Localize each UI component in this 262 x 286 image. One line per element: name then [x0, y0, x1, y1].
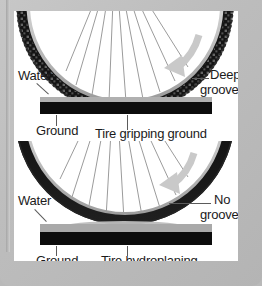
label-contact: Tire hydroplaning — [101, 254, 198, 261]
figure-canvas: Water Ground Tire gripping ground Deep g… — [14, 11, 238, 261]
label-grooves-line1: Deep — [210, 68, 238, 82]
label-water: Water — [18, 69, 51, 83]
rotation-arrow-head-icon — [164, 55, 185, 77]
label-grooves-line1: No — [214, 193, 230, 207]
label-ground: Ground — [36, 124, 78, 138]
leader-grooves — [169, 203, 211, 204]
water-layer-thick — [40, 224, 212, 232]
ground-bar — [40, 232, 212, 245]
figure-frame: Water Ground Tire gripping ground Deep g… — [0, 0, 262, 286]
label-grooves-line2: grooves — [200, 208, 238, 222]
label-ground: Ground — [36, 254, 78, 261]
label-contact: Tire gripping ground — [95, 127, 207, 141]
label-water: Water — [18, 194, 51, 208]
label-grooves-line2: grooves — [200, 83, 238, 97]
panel-tire-gripping: Water Ground Tire gripping ground Deep g… — [14, 11, 238, 141]
leader-grooves — [192, 78, 209, 79]
panel-tire-hydroplaning: Water Ground Tire hydroplaning No groove… — [14, 141, 238, 261]
ground-bar — [40, 102, 212, 114]
rotation-arrow-head-icon — [159, 172, 180, 194]
